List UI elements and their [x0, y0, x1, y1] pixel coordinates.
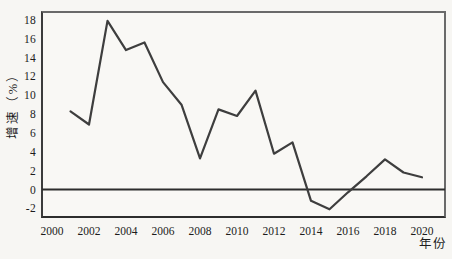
- y-tick-label: 16: [0, 32, 36, 46]
- y-tick-label: 4: [0, 145, 36, 159]
- x-tick-label: 2016: [328, 224, 368, 238]
- x-tick-label: 2000: [32, 224, 72, 238]
- x-tick-label: 2020: [402, 224, 442, 238]
- y-tick-label: 0: [0, 183, 36, 197]
- line-chart-figure: 181614121086420-2 2000200220042006200820…: [0, 0, 452, 259]
- x-tick-label: 2004: [106, 224, 146, 238]
- x-tick-label: 2002: [69, 224, 109, 238]
- y-tick-label: 2: [0, 164, 36, 178]
- plot-area: [41, 11, 446, 218]
- x-tick-label: 2008: [180, 224, 220, 238]
- y-axis-title: 增速（%）: [5, 63, 21, 143]
- y-tick-label: -2: [0, 201, 36, 215]
- x-tick-label: 2012: [254, 224, 294, 238]
- x-tick-label: 2014: [291, 224, 331, 238]
- x-axis-title: 年份: [413, 237, 452, 252]
- y-tick-label: 18: [0, 13, 36, 27]
- x-tick-label: 2006: [143, 224, 183, 238]
- x-tick-label: 2018: [365, 224, 405, 238]
- x-tick-label: 2010: [217, 224, 257, 238]
